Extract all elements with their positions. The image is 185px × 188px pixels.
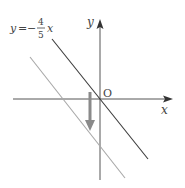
y-axis-label: y: [86, 15, 94, 29]
translated-line: [30, 57, 125, 178]
svg-text:5: 5: [38, 30, 44, 40]
equation-label: y = − 4 5 x: [9, 17, 54, 40]
x-axis-label: x: [161, 103, 168, 117]
svg-text:y: y: [9, 22, 17, 35]
x-axis: [13, 96, 173, 103]
svg-text:=: =: [18, 22, 27, 35]
svg-text:x: x: [47, 22, 54, 35]
coordinate-diagram: y x O y = − 4 5 x: [0, 0, 185, 188]
origin-label: O: [103, 87, 112, 100]
translation-arrow-icon: [85, 92, 95, 131]
svg-text:4: 4: [38, 17, 44, 27]
svg-text:−: −: [27, 22, 36, 35]
